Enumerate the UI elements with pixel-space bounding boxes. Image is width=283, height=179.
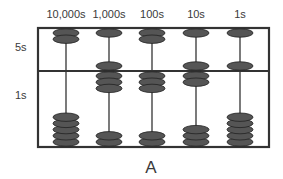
bead xyxy=(96,62,122,70)
bead xyxy=(139,35,165,43)
bead xyxy=(227,113,253,121)
bead xyxy=(183,62,209,70)
bead xyxy=(227,29,253,37)
bead xyxy=(183,78,209,86)
figure-caption: A xyxy=(145,158,156,178)
bead xyxy=(139,132,165,140)
bead xyxy=(53,113,79,121)
bead xyxy=(139,84,165,92)
bead xyxy=(183,125,209,133)
bead xyxy=(183,29,209,37)
bead xyxy=(96,84,122,92)
bead xyxy=(53,35,79,43)
abacus-figure: 10,000s 1,000s 100s 10s 1s 5s 1s A xyxy=(0,0,283,179)
bead xyxy=(96,132,122,140)
abacus-drawing xyxy=(0,0,283,179)
bead xyxy=(227,62,253,70)
bead xyxy=(96,29,122,37)
